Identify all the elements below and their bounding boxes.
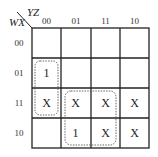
row-header: 01 — [10, 69, 28, 78]
row-header: 11 — [10, 99, 28, 108]
kmap-cell — [32, 118, 61, 148]
kmap-cell — [32, 28, 61, 58]
col-header: 01 — [61, 17, 91, 26]
kmap-cell: X — [120, 88, 149, 118]
kmap-cell — [120, 28, 149, 58]
kmap-cell: X — [61, 88, 90, 118]
kmap-cell: X — [91, 118, 120, 148]
kmap-cell — [61, 58, 90, 88]
col-header: 10 — [120, 17, 149, 26]
kmap-cell — [91, 58, 120, 88]
col-header: 11 — [91, 17, 120, 26]
kmap-cell: X — [32, 88, 61, 118]
kmap-cell: 1 — [61, 118, 90, 148]
kmap-cell: 1 — [32, 58, 61, 88]
col-header: 00 — [32, 17, 61, 26]
kmap-cell: X — [120, 118, 149, 148]
row-header: 00 — [10, 39, 28, 48]
kmap-cell: X — [91, 88, 120, 118]
row-header: 10 — [10, 129, 28, 138]
kmap-cell — [120, 58, 149, 88]
kmap-cell — [91, 28, 120, 58]
kmap-cell — [61, 28, 90, 58]
row-var-label: WX — [9, 17, 25, 28]
